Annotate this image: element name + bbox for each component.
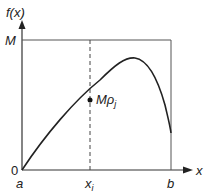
b-label: b [167,176,174,191]
a-label: a [16,176,23,191]
y-axis-arrow-icon [19,20,26,29]
function-curve [22,58,171,170]
x-axis-label: x [195,163,203,178]
y-axis-label: f(x) [6,5,25,20]
point-label: Mρj [96,92,117,109]
x-axis-arrow-icon [183,167,193,174]
xi-label: xi [84,176,95,193]
sample-point [88,98,93,103]
monte-carlo-diagram: f(x) M 0 a x b xi Mρj [0,0,205,195]
max-label: M [5,33,16,48]
